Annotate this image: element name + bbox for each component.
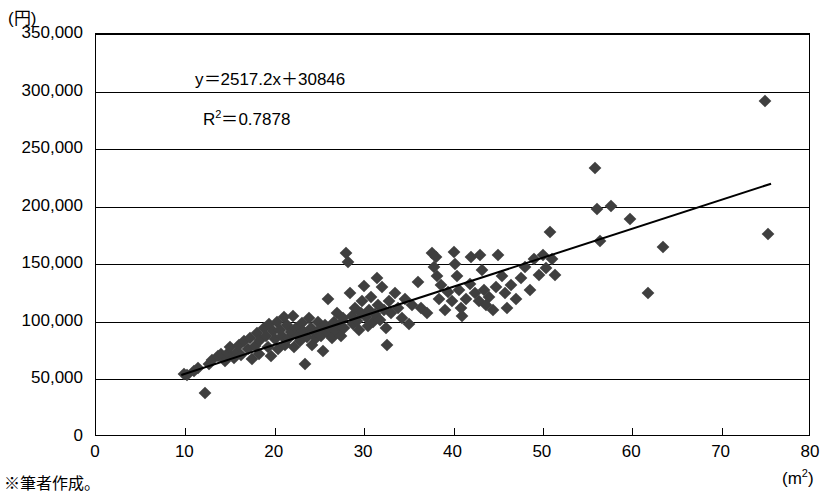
- data-point: [642, 287, 655, 300]
- data-point: [515, 272, 528, 285]
- y-axis-tick-label: 50,000: [0, 368, 83, 388]
- data-point: [656, 241, 669, 254]
- r2-value: ＝0.7878: [221, 110, 290, 129]
- data-point: [758, 94, 771, 107]
- data-point: [322, 292, 335, 305]
- data-point: [451, 269, 464, 282]
- x-axis-tick-mark: [454, 428, 455, 435]
- trendline: [181, 183, 772, 377]
- x-axis-tick-label: 20: [249, 442, 299, 462]
- data-point: [438, 304, 451, 317]
- gridline-horizontal: [96, 92, 809, 93]
- x-axis-tick-label: 60: [606, 442, 656, 462]
- r2-prefix: R: [203, 110, 215, 129]
- data-point: [411, 275, 424, 288]
- data-point: [381, 339, 394, 352]
- gridline-horizontal: [96, 34, 809, 35]
- x-axis-tick-mark: [722, 428, 723, 435]
- x-axis-tick-mark: [632, 428, 633, 435]
- data-point: [447, 245, 460, 258]
- x-axis-tick-label: 0: [70, 442, 120, 462]
- y-axis-tick-label: 200,000: [0, 196, 83, 216]
- data-point: [524, 283, 537, 296]
- x-axis-tick-label: 70: [696, 442, 746, 462]
- data-point: [549, 268, 562, 281]
- x-axis-unit-label: (m2): [782, 467, 814, 489]
- gridline-horizontal: [96, 379, 809, 380]
- r-squared-label: R2＝0.7878: [203, 105, 290, 130]
- data-point: [501, 302, 514, 315]
- footnote: ※筆者作成。: [4, 470, 100, 494]
- x-axis-tick-label: 10: [159, 442, 209, 462]
- data-point: [492, 249, 505, 262]
- data-point: [474, 249, 487, 262]
- data-point: [449, 258, 462, 271]
- data-point: [588, 161, 601, 174]
- x-unit-text: (m: [782, 469, 802, 488]
- data-point: [590, 203, 603, 216]
- x-axis-tick-label: 50: [517, 442, 567, 462]
- data-point: [604, 199, 617, 212]
- data-point: [199, 387, 212, 400]
- y-axis-tick-label: 150,000: [0, 253, 83, 273]
- x-axis-tick-label: 30: [338, 442, 388, 462]
- data-point: [343, 287, 356, 300]
- y-axis-tick-label: 350,000: [0, 23, 83, 43]
- data-point: [317, 344, 330, 357]
- data-point: [544, 226, 557, 239]
- data-point: [510, 292, 523, 305]
- x-axis-tick-mark: [185, 428, 186, 435]
- plot-area: [95, 33, 810, 436]
- scatter-chart: (円) ※筆者作成。 050,000100,000150,000200,0002…: [0, 0, 837, 502]
- x-axis-tick-label: 80: [785, 442, 835, 462]
- x-axis-tick-mark: [275, 428, 276, 435]
- data-point: [358, 280, 371, 293]
- y-axis-tick-label: 100,000: [0, 311, 83, 331]
- gridline-horizontal: [96, 322, 809, 323]
- y-axis-tick-label: 300,000: [0, 81, 83, 101]
- y-axis-tick-label: 250,000: [0, 138, 83, 158]
- x-unit-close: ): [808, 469, 814, 488]
- gridline-horizontal: [96, 149, 809, 150]
- x-axis-tick-mark: [364, 428, 365, 435]
- data-point: [299, 358, 312, 371]
- data-point: [762, 228, 775, 241]
- x-axis-tick-mark: [543, 428, 544, 435]
- data-point: [624, 213, 637, 226]
- trendline-equation-label: y＝2517.2x＋30846: [195, 65, 345, 90]
- x-axis-tick-label: 40: [428, 442, 478, 462]
